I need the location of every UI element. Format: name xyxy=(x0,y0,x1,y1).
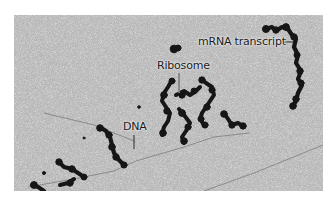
label-ribosome: Ribosome xyxy=(157,60,210,72)
label-dna: DNA xyxy=(123,121,147,133)
label-mrna-transcript: mRNA transcript xyxy=(198,36,286,48)
